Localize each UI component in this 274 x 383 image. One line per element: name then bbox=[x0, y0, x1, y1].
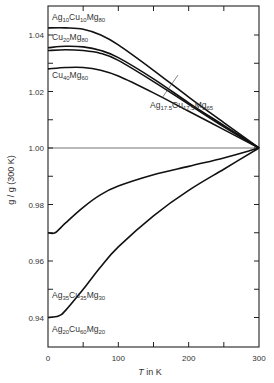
series-label: Ag10Cu10Mg80 bbox=[52, 12, 106, 23]
y-tick-label: 0.94 bbox=[28, 314, 44, 323]
series-labels: Ag10Cu10Mg80Cu20Mg80Ag17.5Cu17.5Mg65Cu40… bbox=[52, 12, 214, 335]
curve-ag17_5cu17_5mg65 bbox=[48, 50, 259, 148]
series-label: Cu40Mg60 bbox=[52, 70, 89, 81]
curve-ag35cu35mg30 bbox=[48, 148, 259, 234]
series-label: Cu20Mg80 bbox=[52, 32, 89, 43]
y-tick-label: 1.00 bbox=[28, 144, 44, 153]
series-label: Ag35Cu35Mg30 bbox=[52, 290, 106, 301]
chart: 01002003000.940.960.981.001.021.04 Ag10C… bbox=[0, 0, 274, 383]
series-label: Ag17.5Cu17.5Mg65 bbox=[150, 100, 214, 111]
y-tick-label: 0.96 bbox=[28, 257, 44, 266]
series-label: Ag20Cu60Mg20 bbox=[52, 324, 106, 335]
x-axis-title: T in K bbox=[138, 367, 162, 377]
y-tick-label: 1.02 bbox=[28, 88, 44, 97]
x-tick-label: 300 bbox=[252, 354, 266, 363]
y-axis-title: g / g (300 K) bbox=[6, 155, 16, 205]
x-tick-label: 200 bbox=[182, 354, 196, 363]
x-tick-label: 100 bbox=[112, 354, 126, 363]
y-tick-label: 1.04 bbox=[28, 31, 44, 40]
y-tick-label: 0.98 bbox=[28, 201, 44, 210]
x-tick-label: 0 bbox=[46, 354, 51, 363]
curve-cu20mg80 bbox=[48, 46, 259, 148]
